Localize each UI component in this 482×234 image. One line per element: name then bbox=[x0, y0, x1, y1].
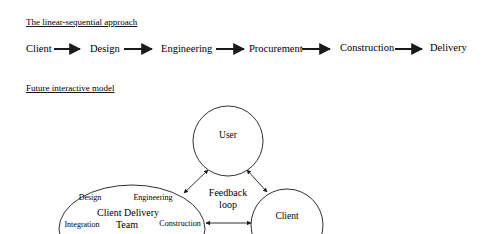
team-label-line2: Team bbox=[116, 219, 138, 230]
step-construction: Construction bbox=[340, 42, 395, 53]
diagram-canvas: The linear-sequential approach Client De… bbox=[0, 0, 482, 234]
interactive-section-title: Future interactive model bbox=[26, 83, 115, 93]
feedback-label-line2: loop bbox=[219, 199, 237, 210]
double-arrow-icon bbox=[247, 170, 267, 192]
feedback-label-line1: Feedback bbox=[209, 187, 247, 198]
step-client: Client bbox=[26, 43, 52, 54]
step-procurement: Procurement bbox=[249, 43, 303, 54]
step-delivery: Delivery bbox=[430, 42, 467, 53]
step-engineering: Engineering bbox=[161, 43, 213, 54]
user-node bbox=[193, 106, 263, 176]
user-label: User bbox=[219, 130, 238, 140]
client-label: Client bbox=[275, 211, 299, 221]
step-design: Design bbox=[90, 43, 120, 54]
team-sub-integration: Integration bbox=[64, 220, 99, 229]
linear-section-title: The linear-sequential approach bbox=[26, 17, 138, 27]
team-sub-design: Design bbox=[79, 193, 102, 202]
double-arrow-icon bbox=[184, 170, 208, 193]
team-label-line1: Client Delivery bbox=[97, 207, 159, 218]
team-sub-engineering: Engineering bbox=[133, 193, 172, 202]
team-sub-construction: Construction bbox=[159, 219, 200, 228]
